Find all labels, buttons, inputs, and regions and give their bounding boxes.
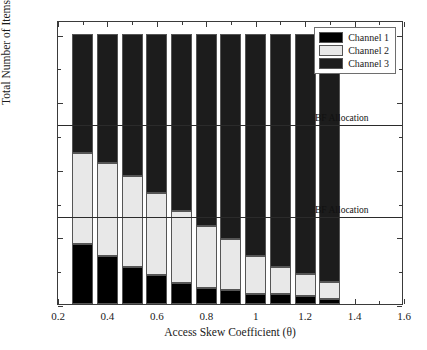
bar-segment[interactable] bbox=[270, 267, 291, 294]
bar-segment[interactable] bbox=[97, 163, 118, 256]
bf-allocation-line bbox=[58, 217, 402, 218]
x-axis-title: Access Skew Coefficient (θ) bbox=[57, 326, 403, 338]
bar-group[interactable] bbox=[97, 20, 118, 304]
bar-group[interactable] bbox=[146, 20, 167, 304]
bar-group[interactable] bbox=[171, 20, 192, 304]
x-tick bbox=[404, 299, 405, 304]
y-tick-right bbox=[397, 306, 402, 307]
bar-group[interactable] bbox=[122, 20, 143, 304]
bar-segment[interactable] bbox=[196, 226, 217, 288]
y-tick-minor-right bbox=[399, 272, 402, 273]
bar-segment[interactable] bbox=[270, 294, 291, 304]
bar-segment[interactable] bbox=[295, 34, 316, 275]
x-tick-label: 0.6 bbox=[150, 310, 164, 322]
bar-group[interactable] bbox=[295, 20, 316, 304]
legend-label: Channel 2 bbox=[348, 46, 389, 56]
legend-item[interactable]: Channel 2 bbox=[319, 44, 389, 57]
bar-segment[interactable] bbox=[146, 275, 167, 304]
bar-segment[interactable] bbox=[122, 267, 143, 304]
x-tick bbox=[58, 299, 59, 304]
bar-segment[interactable] bbox=[295, 296, 316, 304]
legend-label: Channel 1 bbox=[348, 33, 389, 43]
x-tick-label: 1.2 bbox=[298, 310, 312, 322]
bar-segment[interactable] bbox=[97, 34, 118, 163]
y-axis-title: Total Number of Items (D) bbox=[0, 0, 12, 163]
x-tick-top bbox=[404, 22, 405, 27]
bar-segment[interactable] bbox=[196, 34, 217, 227]
bar-segment[interactable] bbox=[171, 211, 192, 283]
legend-swatch-icon bbox=[319, 58, 343, 69]
y-tick-minor bbox=[58, 205, 61, 206]
legend-item[interactable]: Channel 3 bbox=[319, 57, 389, 70]
bar-group[interactable] bbox=[220, 20, 241, 304]
bar-segment[interactable] bbox=[122, 176, 143, 267]
bar-group[interactable] bbox=[270, 20, 291, 304]
y-tick-right bbox=[397, 238, 402, 239]
bar-segment[interactable] bbox=[196, 288, 217, 304]
legend-swatch-icon bbox=[319, 45, 343, 56]
x-tick-minor-top bbox=[379, 22, 380, 25]
x-tick-label: 0.4 bbox=[101, 310, 115, 322]
y-tick-right bbox=[397, 36, 402, 37]
x-tick bbox=[355, 299, 356, 304]
bf-allocation-label: BF Allocation bbox=[315, 113, 369, 123]
bar-segment[interactable] bbox=[220, 239, 241, 290]
bar-segment[interactable] bbox=[319, 299, 340, 304]
bar-segment[interactable] bbox=[171, 283, 192, 304]
x-tick-label: 0.8 bbox=[199, 310, 213, 322]
y-tick-minor-right bbox=[399, 137, 402, 138]
bar-segment[interactable] bbox=[245, 294, 266, 304]
bar-segment[interactable] bbox=[220, 290, 241, 304]
figure-canvas: Total Number of Items (D) Access Skew Co… bbox=[0, 0, 427, 350]
y-tick-right bbox=[397, 103, 402, 104]
y-tick-minor-right bbox=[399, 205, 402, 206]
x-tick-label: 1 bbox=[253, 310, 259, 322]
bar-segment[interactable] bbox=[220, 34, 241, 240]
bar-segment[interactable] bbox=[72, 34, 93, 154]
y-tick-minor-right bbox=[399, 69, 402, 70]
bar-segment[interactable] bbox=[245, 256, 266, 294]
bar-group[interactable] bbox=[72, 20, 93, 304]
legend-swatch-icon bbox=[319, 32, 343, 43]
bar-segment[interactable] bbox=[72, 153, 93, 244]
legend-item[interactable]: Channel 1 bbox=[319, 31, 389, 44]
y-tick bbox=[58, 36, 63, 37]
bar-segment[interactable] bbox=[146, 34, 167, 194]
bf-allocation-label: BF Allocation bbox=[315, 205, 369, 215]
bf-allocation-line bbox=[58, 125, 402, 126]
y-tick bbox=[58, 103, 63, 104]
bar-segment[interactable] bbox=[72, 244, 93, 304]
legend-label: Channel 3 bbox=[348, 59, 389, 69]
x-tick-label: 1.6 bbox=[397, 310, 411, 322]
y-tick bbox=[58, 238, 63, 239]
plot-area: 05001000150020000.20.40.60.811.21.41.6 B… bbox=[57, 21, 403, 305]
x-tick-label: 1.4 bbox=[348, 310, 362, 322]
y-tick bbox=[58, 306, 63, 307]
chart-legend: Channel 1Channel 2Channel 3 bbox=[314, 27, 396, 74]
bar-segment[interactable] bbox=[245, 34, 266, 256]
y-tick bbox=[58, 171, 63, 172]
y-tick-minor bbox=[58, 69, 61, 70]
bar-segment[interactable] bbox=[97, 256, 118, 304]
bar-segment[interactable] bbox=[319, 282, 340, 299]
bar-segment[interactable] bbox=[146, 193, 167, 274]
bar-group[interactable] bbox=[196, 20, 217, 304]
bar-segment[interactable] bbox=[171, 34, 192, 211]
y-tick-right bbox=[397, 171, 402, 172]
x-tick-top bbox=[58, 22, 59, 27]
bar-group[interactable] bbox=[245, 20, 266, 304]
y-tick-minor bbox=[58, 272, 61, 273]
bar-segment[interactable] bbox=[295, 274, 316, 296]
bar-segment[interactable] bbox=[270, 34, 291, 267]
x-tick-minor bbox=[379, 301, 380, 304]
bar-segment[interactable] bbox=[122, 34, 143, 177]
x-tick-label: 0.2 bbox=[51, 310, 65, 322]
y-tick-minor bbox=[58, 137, 61, 138]
